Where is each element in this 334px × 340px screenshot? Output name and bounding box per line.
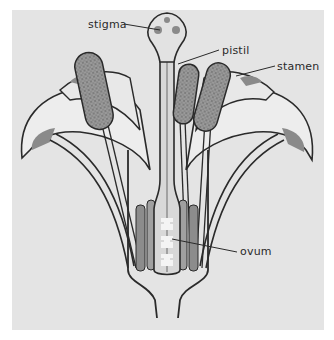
stigma [148, 13, 186, 62]
label-ovum: ovum [240, 246, 272, 257]
stamen-leader [236, 66, 275, 76]
flower-cross-section-illustration [0, 0, 334, 340]
anthers [72, 50, 233, 134]
pistil-leader [178, 50, 219, 64]
label-stigma: stigma [88, 19, 127, 30]
label-pistil: pistil [222, 45, 249, 56]
label-stamen: stamen [277, 61, 319, 72]
